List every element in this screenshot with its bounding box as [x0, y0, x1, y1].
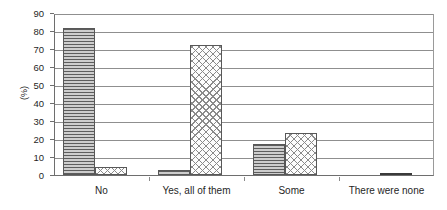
- y-axis-tick-label: 90: [14, 9, 44, 19]
- bar: [95, 167, 127, 175]
- x-axis-tick-mark: [339, 177, 340, 181]
- x-axis-tick-mark: [149, 177, 150, 181]
- y-axis-tick-label: 40: [14, 99, 44, 109]
- bar: [380, 173, 412, 175]
- x-axis-label: No: [54, 186, 149, 196]
- y-axis-tick-label: 70: [14, 45, 44, 55]
- y-axis-tick-label: 50: [14, 81, 44, 91]
- gridline: [55, 86, 433, 87]
- bar-chart: (%) 9080706050403020100 NoYes, all of th…: [0, 0, 447, 210]
- gridline: [55, 32, 433, 33]
- bar: [253, 144, 285, 175]
- gridline: [55, 158, 433, 159]
- plot-area: [54, 14, 434, 176]
- x-axis-label: Some: [244, 186, 339, 196]
- bar: [285, 133, 317, 175]
- y-axis-tick-label: 30: [14, 117, 44, 127]
- x-axis-label: Yes, all of them: [149, 186, 244, 196]
- y-axis-tick-label: 0: [14, 171, 44, 181]
- gridline: [55, 14, 433, 15]
- y-axis-tick-label: 10: [14, 153, 44, 163]
- gridline: [55, 68, 433, 69]
- y-axis-tick-label: 80: [14, 27, 44, 37]
- y-axis-tick-label: 20: [14, 135, 44, 145]
- gridline: [55, 104, 433, 105]
- gridline: [55, 122, 433, 123]
- bar: [158, 170, 190, 175]
- x-axis-tick-mark: [244, 177, 245, 181]
- gridline: [55, 140, 433, 141]
- x-axis-label: There were none: [339, 186, 434, 196]
- y-axis-tick-label: 60: [14, 63, 44, 73]
- bar: [190, 45, 222, 176]
- bar: [63, 28, 95, 175]
- gridline: [55, 50, 433, 51]
